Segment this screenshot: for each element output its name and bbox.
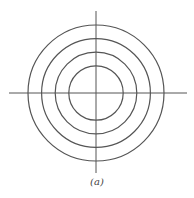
concentric-circles-diagram	[0, 0, 194, 198]
figure-caption: (a)	[0, 176, 194, 187]
